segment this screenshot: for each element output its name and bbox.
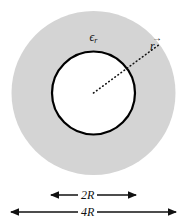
outer-dimension-label: 4R (78, 206, 97, 218)
radius-vector-label: →r (150, 38, 155, 52)
dielectric-shell-figure: ϵr →r 2R 4R (0, 0, 187, 224)
permittivity-subscript: r (94, 36, 97, 45)
inner-dimension-label: 2R (78, 189, 97, 201)
vector-arrow-icon: → (152, 33, 162, 43)
